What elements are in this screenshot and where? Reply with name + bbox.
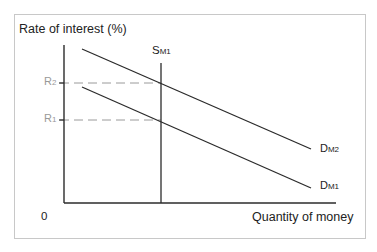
r1-label: R1 — [44, 112, 56, 124]
x-axis-label: Quantity of money — [252, 210, 353, 224]
origin-label: 0 — [41, 210, 47, 222]
r2-label: R2 — [44, 75, 56, 87]
sm1-label: SM1 — [152, 44, 171, 56]
dm2-label: DM2 — [320, 142, 339, 154]
demand-line-dm1 — [82, 87, 311, 188]
dm1-label: DM1 — [320, 179, 339, 191]
y-axis-label: Rate of interest (%) — [19, 22, 127, 36]
demand-line-dm2 — [82, 49, 311, 149]
